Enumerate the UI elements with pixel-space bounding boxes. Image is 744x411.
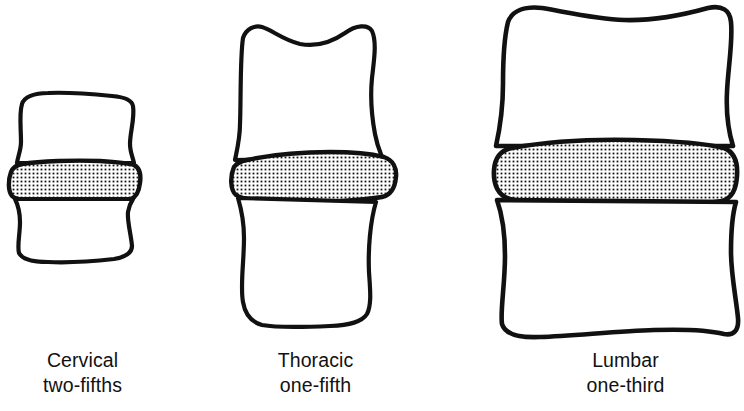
thoracic-disc: [231, 152, 396, 202]
lumbar-lower-body: [497, 200, 738, 337]
vertebral-disc-diagram: [0, 0, 744, 411]
cervical-disc: [9, 161, 140, 203]
thoracic-vertebra-group: [231, 26, 396, 327]
lumbar-upper-body: [496, 7, 733, 146]
cervical-lower-body: [15, 199, 133, 262]
cervical-upper-body: [17, 93, 134, 163]
cervical-vertebra-group: [9, 93, 140, 263]
lumbar-vertebra-group: [494, 7, 738, 337]
thoracic-lower-body: [238, 198, 376, 327]
thoracic-upper-body: [235, 26, 382, 160]
lumbar-disc: [494, 140, 737, 208]
